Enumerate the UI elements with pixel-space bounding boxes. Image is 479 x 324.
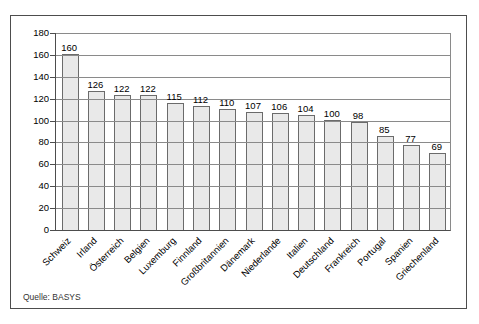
gridline xyxy=(56,164,450,165)
y-axis-tick-mark xyxy=(50,142,55,143)
bar xyxy=(298,115,315,230)
bar xyxy=(167,103,184,230)
y-axis-tick-label: 100 xyxy=(11,115,49,127)
gridline xyxy=(56,55,450,56)
bar-value-label: 98 xyxy=(353,110,364,121)
y-axis-tick-label: 120 xyxy=(11,93,49,105)
bar-value-label: 122 xyxy=(140,83,156,94)
bar xyxy=(246,112,263,230)
y-axis-tick-mark xyxy=(50,230,55,231)
y-axis-tick-mark xyxy=(50,208,55,209)
y-axis-tick-mark xyxy=(50,77,55,78)
bar xyxy=(351,122,368,230)
gridline xyxy=(56,77,450,78)
bar xyxy=(193,106,210,230)
y-axis-tick-mark xyxy=(50,99,55,100)
bar-value-label: 77 xyxy=(405,133,416,144)
y-axis-tick-label: 60 xyxy=(11,158,49,170)
figure-page: 1601261221221151121101071061041009885776… xyxy=(0,0,479,324)
y-axis-tick-mark xyxy=(50,121,55,122)
y-axis-tick-mark xyxy=(50,33,55,34)
bar xyxy=(140,95,157,230)
bar-value-label: 85 xyxy=(379,124,390,135)
y-axis-tick-mark xyxy=(50,55,55,56)
bar-value-label: 100 xyxy=(324,108,340,119)
y-axis-tick-label: 40 xyxy=(11,180,49,192)
y-axis-tick-label: 160 xyxy=(11,49,49,61)
gridline xyxy=(56,121,450,122)
bar-value-label: 69 xyxy=(432,141,443,152)
plot-area: 1601261221221151121101071061041009885776… xyxy=(55,33,451,231)
bar xyxy=(377,136,394,230)
y-axis-tick-mark xyxy=(50,186,55,187)
chart-frame: 1601261221221151121101071061041009885776… xyxy=(10,15,467,309)
x-axis-label: Portugal xyxy=(355,235,388,268)
bar-value-label: 160 xyxy=(61,42,77,53)
bar xyxy=(88,91,105,230)
source-note: Quelle: BASYS xyxy=(23,292,81,302)
y-axis-tick-label: 140 xyxy=(11,71,49,83)
y-axis-tick-label: 80 xyxy=(11,136,49,148)
bar-value-label: 126 xyxy=(87,79,103,90)
gridline xyxy=(56,208,450,209)
bar-value-label: 107 xyxy=(245,100,261,111)
bar xyxy=(272,113,289,230)
bar-value-label: 115 xyxy=(167,91,182,102)
y-axis-tick-label: 180 xyxy=(11,27,49,39)
bar xyxy=(219,109,236,230)
y-axis-tick-label: 20 xyxy=(11,202,49,214)
bar xyxy=(324,120,341,230)
gridline xyxy=(56,186,450,187)
x-axis-label: Schweiz xyxy=(40,235,73,268)
bar-value-label: 112 xyxy=(193,94,208,105)
gridline xyxy=(56,33,450,34)
bar xyxy=(403,145,420,230)
bar-value-label: 110 xyxy=(219,97,234,108)
bar-value-label: 104 xyxy=(298,103,314,114)
bar-value-label: 106 xyxy=(271,101,287,112)
y-axis-tick-mark xyxy=(50,164,55,165)
gridline xyxy=(56,142,450,143)
bar xyxy=(114,95,131,230)
y-axis-tick-label: 0 xyxy=(11,224,49,236)
bar-value-label: 122 xyxy=(114,83,130,94)
